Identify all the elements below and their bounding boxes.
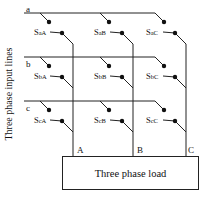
switch-label-bC: SbC xyxy=(146,72,158,81)
branch-bB xyxy=(100,57,108,65)
switch-label-cC: ScC xyxy=(146,116,158,125)
switch-label-cA: ScA xyxy=(34,116,46,125)
input-label-c: c xyxy=(26,104,30,113)
switch-label-aB: SaB xyxy=(94,28,106,37)
input-label-a: a xyxy=(26,5,30,14)
output-label-B: B xyxy=(137,146,143,155)
output-label-C: C xyxy=(188,146,194,155)
branch-aA xyxy=(40,13,48,21)
switch-label-bA: SbA xyxy=(34,72,47,81)
switch-label-aC: SaC xyxy=(146,28,158,37)
input-label-b: b xyxy=(26,60,31,69)
three-phase-load-box: Three phase load xyxy=(62,156,199,190)
switch-label-bB: SbB xyxy=(94,72,106,81)
branch-bA xyxy=(40,57,48,65)
load-label: Three phase load xyxy=(95,168,167,179)
switch-label-cB: ScB xyxy=(94,116,106,125)
output-label-A: A xyxy=(77,146,84,155)
branch-aB xyxy=(100,13,108,21)
switch-label-aA: SaA xyxy=(34,28,46,37)
branch-cB xyxy=(100,101,108,109)
branch-cA xyxy=(40,101,48,109)
